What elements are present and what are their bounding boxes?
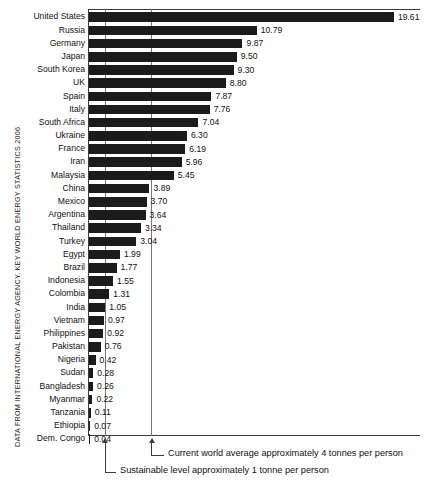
bar-value-label: 5.96	[186, 157, 203, 168]
category-label: Philippines	[0, 328, 85, 338]
bar-track: 1.05	[89, 303, 436, 313]
bar-track: 6.19	[89, 144, 436, 154]
bar-row: South Africa7.04	[0, 117, 436, 130]
category-label: Myanmar	[0, 394, 85, 404]
bar-row: France6.19	[0, 143, 436, 156]
bar	[89, 263, 117, 273]
bar	[89, 395, 92, 405]
bar	[89, 65, 234, 75]
bar-row: Brazil1.77	[0, 262, 436, 275]
category-label: United States	[0, 11, 85, 21]
bar-value-label: 0.11	[95, 407, 111, 418]
bar	[89, 171, 174, 181]
bar-track: 5.45	[89, 171, 436, 181]
annotation-label-current-world-average: Current world average approximately 4 to…	[168, 448, 403, 459]
bar-track: 0.07	[89, 421, 436, 431]
bar-value-label: 3.70	[151, 196, 168, 207]
bar	[89, 210, 146, 220]
category-label: Indonesia	[0, 275, 85, 285]
category-label: Japan	[0, 51, 85, 61]
category-label: France	[0, 143, 85, 153]
bar	[89, 408, 91, 418]
bar	[89, 316, 104, 326]
bar-value-label: 6.30	[191, 130, 208, 141]
category-label: Argentina	[0, 209, 85, 219]
annotation-elbow-sustainable-level	[105, 472, 116, 473]
bar	[89, 355, 96, 365]
bar-row: Ukraine6.30	[0, 130, 436, 143]
bar-value-label: 9.50	[241, 51, 258, 62]
bar-track: 0.22	[89, 395, 436, 405]
category-label: Ethiopia	[0, 420, 85, 430]
bar-value-label: 8.80	[230, 78, 247, 89]
bar-row: Myanmar0.22	[0, 393, 436, 406]
bar-row: Pakistan0.76	[0, 341, 436, 354]
bar	[89, 184, 149, 194]
category-label: Spain	[0, 91, 85, 101]
bar-row: Tanzania0.11	[0, 407, 436, 420]
annotation-elbow-current-world-average	[151, 455, 164, 456]
bar-value-label: 3.64	[150, 210, 167, 221]
bar-row: Turkey3.04	[0, 235, 436, 248]
category-label: Nigeria	[0, 354, 85, 364]
bar-track: 3.89	[89, 184, 436, 194]
bar-value-label: 0.28	[97, 368, 114, 379]
bar-row: Philippines0.92	[0, 328, 436, 341]
bar-row: Colombia1.31	[0, 288, 436, 301]
category-label: Ukraine	[0, 130, 85, 140]
bar-row: Bangladesh0.26	[0, 380, 436, 393]
category-label: Brazil	[0, 262, 85, 272]
bar-row: Malaysia5.45	[0, 169, 436, 182]
category-label: Iran	[0, 156, 85, 166]
bar-value-label: 1.55	[117, 276, 134, 287]
bar-track: 0.42	[89, 355, 436, 365]
bar-track: 3.70	[89, 197, 436, 207]
bar-row: Mexico3.70	[0, 196, 436, 209]
category-label: Egypt	[0, 249, 85, 259]
category-label: Russia	[0, 25, 85, 35]
bar-value-label: 0.07	[94, 421, 111, 432]
bar-track: 7.87	[89, 92, 436, 102]
bar-value-label: 9.87	[246, 38, 263, 49]
bar	[89, 92, 211, 102]
bar-row: Japan9.50	[0, 51, 436, 64]
bar	[89, 237, 136, 247]
category-label: South Africa	[0, 117, 85, 127]
bar	[89, 118, 198, 128]
bar-row: Sudan0.28	[0, 367, 436, 380]
bar-rows: United States19.61Russia10.79Germany9.87…	[0, 11, 436, 446]
category-label: India	[0, 302, 85, 312]
bar	[89, 382, 93, 392]
bar	[89, 26, 257, 36]
bar-value-label: 0.92	[107, 328, 124, 339]
annotation-stem-current-world-average	[151, 443, 152, 455]
bar-track: 0.04	[89, 434, 436, 444]
bar-track: 7.04	[89, 118, 436, 128]
bar	[89, 329, 103, 339]
bar-track: 19.61	[89, 12, 436, 22]
bar	[89, 342, 101, 352]
axis-line-top	[88, 9, 420, 10]
bar	[89, 197, 147, 207]
bar-row: Nigeria0.42	[0, 354, 436, 367]
bar-row: United States19.61	[0, 11, 436, 24]
bar-value-label: 1.77	[121, 262, 138, 273]
bar-track: 3.04	[89, 237, 436, 247]
bar-track: 1.31	[89, 289, 436, 299]
bar-value-label: 0.26	[97, 381, 114, 392]
bar-track: 0.92	[89, 329, 436, 339]
bar-track: 6.30	[89, 131, 436, 141]
category-label: Italy	[0, 104, 85, 114]
bar	[89, 78, 226, 88]
bar	[89, 12, 394, 22]
bar-value-label: 1.99	[124, 249, 141, 260]
bar	[89, 434, 90, 444]
bar-value-label: 3.89	[153, 183, 170, 194]
bar-track: 3.64	[89, 210, 436, 220]
bar	[89, 303, 105, 313]
bar-row: Ethiopia0.07	[0, 420, 436, 433]
bar-value-label: 3.34	[145, 223, 162, 234]
category-label: Vietnam	[0, 315, 85, 325]
bar-row: Germany9.87	[0, 37, 436, 50]
plot-area: United States19.61Russia10.79Germany9.87…	[0, 0, 436, 497]
